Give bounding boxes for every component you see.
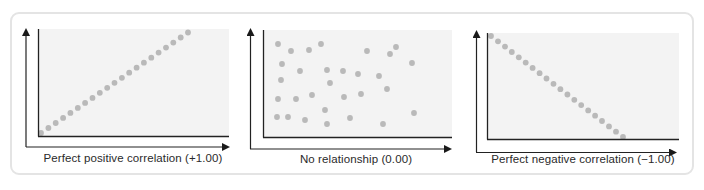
- caption-no-relationship: No relationship (0.00): [300, 153, 412, 165]
- plot-area: [263, 30, 452, 137]
- plot-area: [487, 33, 679, 139]
- caption-negative-correlation: Perfect negative correlation (−1.00): [491, 153, 675, 165]
- panel-positive-correlation: [26, 29, 229, 147]
- plot-area: [38, 29, 229, 136]
- caption-positive-correlation: Perfect positive correlation (+1.00): [43, 152, 222, 164]
- panel-negative-correlation: [476, 32, 679, 153]
- panel-no-relationship: [250, 30, 452, 149]
